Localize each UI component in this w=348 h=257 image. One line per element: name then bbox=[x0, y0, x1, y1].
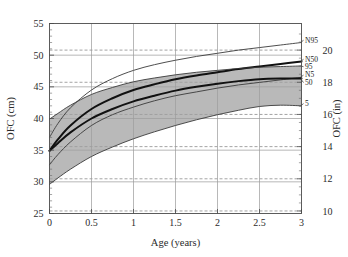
y2-tick-label: 10 bbox=[323, 206, 333, 217]
y2-tick-label: 20 bbox=[323, 45, 333, 56]
curve-label-n95: N95 bbox=[305, 36, 318, 45]
x-tick-label: 0.5 bbox=[85, 217, 98, 228]
y-tick-label: 55 bbox=[34, 18, 44, 29]
y-tick-label: 35 bbox=[34, 145, 44, 156]
x-tick-label: 3 bbox=[299, 217, 304, 228]
x-axis-title: Age (years) bbox=[151, 237, 201, 249]
y2-tick-label: 18 bbox=[323, 77, 333, 88]
y-tick-label: 45 bbox=[34, 81, 44, 92]
y2-tick-label: 14 bbox=[323, 141, 333, 152]
y2-axis-title: OFC (in) bbox=[331, 99, 343, 138]
y-tick-label: 40 bbox=[34, 113, 44, 124]
y-tick-label: 50 bbox=[34, 50, 44, 61]
y-axis-title: OFC (cm) bbox=[5, 97, 17, 140]
y-tick-label: 25 bbox=[34, 208, 44, 219]
curve-label-50: 50 bbox=[305, 78, 313, 87]
y2-tick-label: 12 bbox=[323, 173, 333, 184]
ofc-growth-chart: N95N5095N5505 25303540455055 10121416182… bbox=[0, 0, 348, 257]
x-tick-label: 0 bbox=[47, 217, 52, 228]
bottom-axis-tick-labels: 00.511.522.53 bbox=[47, 217, 304, 228]
x-tick-label: 1 bbox=[131, 217, 136, 228]
x-tick-label: 2 bbox=[215, 217, 220, 228]
x-tick-label: 1.5 bbox=[169, 217, 182, 228]
curve-label-5: 5 bbox=[305, 99, 309, 108]
y-tick-label: 30 bbox=[34, 176, 44, 187]
x-tick-label: 2.5 bbox=[253, 217, 266, 228]
